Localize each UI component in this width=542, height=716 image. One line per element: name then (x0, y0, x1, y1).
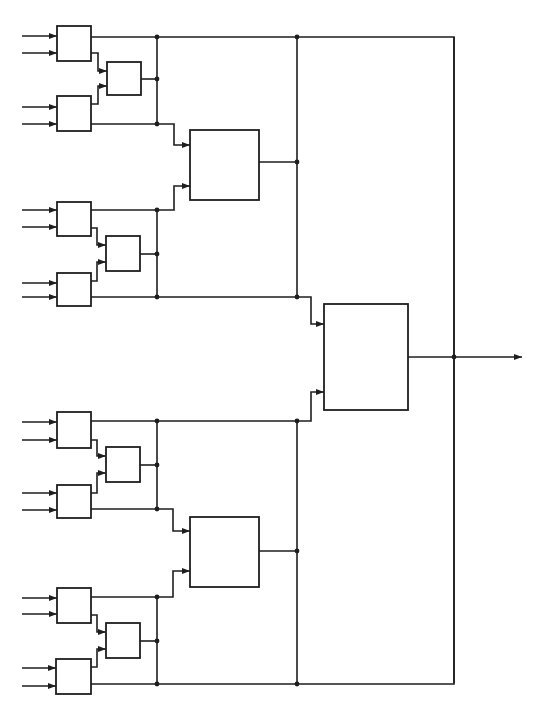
junction-dot (295, 549, 300, 554)
junction-dot (155, 35, 160, 40)
block-diagram (0, 0, 542, 716)
junction-dot (155, 77, 160, 82)
junction-dot (155, 208, 160, 213)
junction-dot (155, 252, 160, 257)
input-block (57, 485, 91, 518)
mid-input (157, 509, 190, 531)
input-block (57, 202, 91, 236)
block-link (91, 86, 107, 104)
input-block (57, 26, 91, 61)
junction-dot (295, 35, 300, 40)
input-block (57, 412, 91, 448)
mid-input (157, 124, 190, 145)
junction-dot (155, 463, 160, 468)
combiner-block (106, 236, 140, 271)
junction-dot (155, 507, 160, 512)
final-input (157, 297, 324, 324)
junction-dot (155, 639, 160, 644)
block-link (91, 262, 106, 281)
combiner-block (106, 447, 140, 482)
junction-dot (155, 682, 160, 687)
block-link (91, 473, 106, 493)
junction-dot (155, 295, 160, 300)
final-input (157, 392, 324, 421)
intermediate-block (190, 130, 259, 200)
junction-dot (155, 122, 160, 127)
block-link (91, 53, 107, 71)
final-block (324, 304, 408, 410)
input-block (56, 659, 91, 694)
intermediate-block (190, 517, 259, 587)
mid-input (157, 571, 190, 597)
junction-dot (295, 419, 300, 424)
block-link (91, 615, 106, 632)
block-link (91, 649, 106, 667)
junction-dot (452, 355, 457, 360)
junction-dot (295, 160, 300, 165)
wires (22, 36, 522, 686)
junction-dot (155, 595, 160, 600)
junction-dot (155, 419, 160, 424)
junction-dot (295, 682, 300, 687)
input-block (57, 273, 91, 306)
block-link (91, 440, 106, 456)
blocks (56, 26, 408, 694)
input-block (57, 96, 91, 131)
block-link (91, 228, 106, 245)
combiner-block (106, 623, 140, 658)
combiner-block (107, 62, 141, 95)
input-block (57, 588, 91, 623)
junction-dot (295, 295, 300, 300)
mid-input (157, 186, 190, 210)
